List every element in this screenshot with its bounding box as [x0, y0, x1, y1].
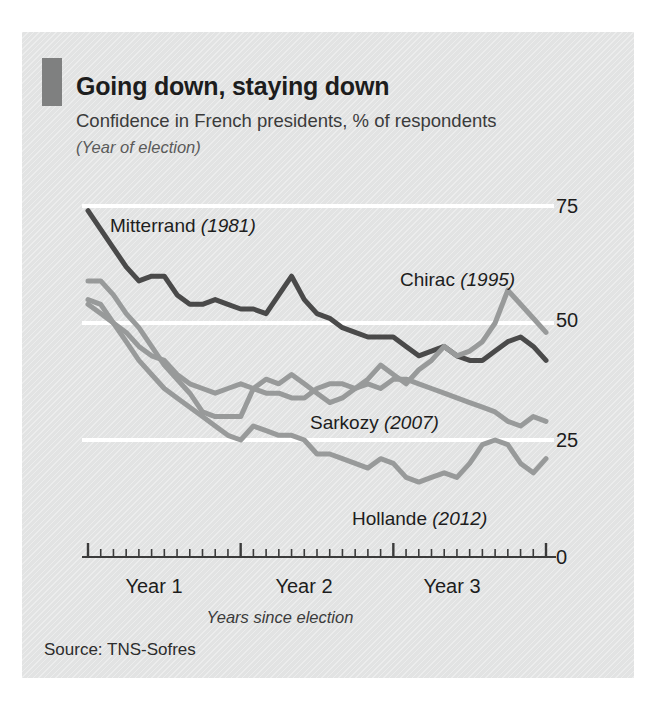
ytick-label-50: 50 [556, 309, 578, 332]
xtick-label-year-1: Year 1 [99, 575, 209, 598]
series-label-chirac-name: Chirac [400, 269, 455, 290]
series-label-sarkozy: Sarkozy (2007) [310, 412, 439, 434]
chart-figure: Going down, staying down Confidence in F… [0, 0, 664, 718]
source-note: Source: TNS-Sofres [44, 640, 196, 660]
series-label-hollande: Hollande (2012) [352, 508, 487, 530]
series-label-chirac-year: (1995) [460, 269, 515, 290]
ytick-label-75: 75 [556, 195, 578, 218]
ytick-label-0: 0 [556, 546, 567, 569]
series-label-chirac: Chirac (1995) [400, 269, 515, 291]
series-label-sarkozy-name: Sarkozy [310, 412, 379, 433]
xtick-label-year-2: Year 2 [249, 575, 359, 598]
x-axis [82, 543, 556, 557]
series-label-mitterrand-year: (1981) [201, 215, 256, 236]
xtick-label-year-3: Year 3 [397, 575, 507, 598]
series-label-sarkozy-year: (2007) [384, 412, 439, 433]
series-label-hollande-year: (2012) [432, 508, 487, 529]
x-axis-title: Years since election [0, 608, 560, 627]
series-line-chirac [88, 281, 546, 417]
series-label-hollande-name: Hollande [352, 508, 427, 529]
series-label-mitterrand-name: Mitterrand [110, 215, 196, 236]
series-label-mitterrand: Mitterrand (1981) [110, 215, 256, 237]
ytick-label-25: 25 [556, 429, 578, 452]
